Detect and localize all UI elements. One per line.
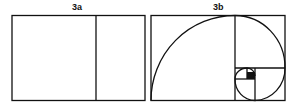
golden-ratio-diagram	[0, 0, 293, 111]
golden-rectangle-3b	[151, 16, 285, 101]
figure-3a	[12, 16, 145, 101]
golden-rectangle-3a	[12, 16, 145, 101]
golden-spiral	[151, 16, 285, 101]
figure-3b	[151, 16, 285, 101]
